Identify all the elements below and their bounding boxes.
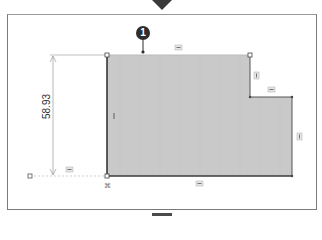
dimension-value[interactable]: 58.93 bbox=[41, 87, 52, 127]
fixed-relation-icon[interactable]: ⌘ bbox=[104, 182, 111, 189]
horizontal-relation-icon[interactable] bbox=[268, 87, 275, 92]
svg-text:⌘: ⌘ bbox=[104, 182, 111, 189]
origin-vertex[interactable] bbox=[105, 174, 109, 178]
vertex-step[interactable] bbox=[249, 96, 251, 98]
construction-point[interactable] bbox=[28, 174, 32, 178]
vertex-right-top[interactable] bbox=[291, 96, 293, 98]
vertex-top-left[interactable] bbox=[105, 53, 109, 57]
vertical-relation-icon[interactable] bbox=[297, 133, 302, 140]
vertical-relation-icon[interactable] bbox=[254, 72, 259, 79]
horizontal-relation-icon[interactable] bbox=[196, 181, 203, 186]
callout-badge: 1 bbox=[136, 26, 150, 40]
horizontal-relation-icon[interactable] bbox=[175, 45, 182, 50]
vertex-top-right[interactable] bbox=[248, 53, 252, 57]
horizontal-relation-icon[interactable] bbox=[66, 167, 73, 172]
sketch-profile[interactable] bbox=[107, 55, 292, 176]
panel-handle[interactable] bbox=[152, 213, 172, 216]
callout-leader-dot bbox=[141, 50, 144, 53]
vertex-bottom-right[interactable] bbox=[291, 175, 293, 177]
